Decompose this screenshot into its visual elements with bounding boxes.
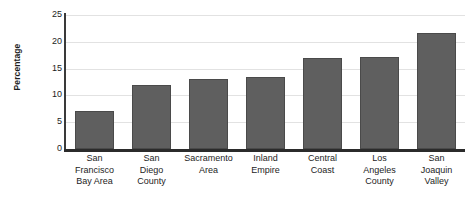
x-axis-category-label-line: County bbox=[123, 176, 180, 188]
x-axis-category-label-line: San bbox=[123, 153, 180, 165]
x-axis-category-label: SanFranciscoBay Area bbox=[66, 153, 123, 188]
y-axis-tick-label: 25 bbox=[38, 9, 62, 19]
x-axis-category-label-line: Diego bbox=[123, 165, 180, 177]
x-axis-category-label-line: Joaquin bbox=[408, 165, 465, 177]
y-axis-tick-label: 15 bbox=[38, 63, 62, 73]
x-axis-category-label: SanJoaquinValley bbox=[408, 153, 465, 188]
x-axis-category-label-line: Valley bbox=[408, 176, 465, 188]
y-axis-tick-label: 10 bbox=[38, 89, 62, 99]
x-axis-category-label: CentralCoast bbox=[294, 153, 351, 176]
x-axis-category-label-line: San bbox=[66, 153, 123, 165]
bar bbox=[75, 111, 114, 149]
x-axis-category-label: LosAngelesCounty bbox=[351, 153, 408, 188]
x-axis-category-label: InlandEmpire bbox=[237, 153, 294, 176]
x-axis-category-label-line: Los bbox=[351, 153, 408, 165]
y-axis-title: Percentage bbox=[12, 22, 22, 112]
x-axis-category-label-line: Angeles bbox=[351, 165, 408, 177]
x-axis-category-label-line: Francisco bbox=[66, 165, 123, 177]
x-axis-category-label-line: Bay Area bbox=[66, 176, 123, 188]
bar bbox=[303, 58, 342, 149]
x-axis-category-labels: SanFranciscoBay AreaSanDiegoCountySacram… bbox=[66, 153, 465, 205]
bar bbox=[189, 79, 228, 149]
bar-chart: Percentage 0510152025 SanFranciscoBay Ar… bbox=[0, 0, 473, 205]
bar bbox=[246, 77, 285, 149]
bar bbox=[417, 33, 456, 149]
x-axis-category-label: SacramentoArea bbox=[180, 153, 237, 176]
x-axis-category-label-line: Area bbox=[180, 165, 237, 177]
x-axis-category-label-line: Coast bbox=[294, 165, 351, 177]
y-axis-tick-label: 20 bbox=[38, 36, 62, 46]
bar bbox=[360, 57, 399, 149]
x-axis-line bbox=[64, 149, 465, 152]
x-axis-category-label-line: San bbox=[408, 153, 465, 165]
x-axis-category-label: SanDiegoCounty bbox=[123, 153, 180, 188]
y-axis-tick-label: 5 bbox=[38, 116, 62, 126]
x-axis-category-label-line: Inland bbox=[237, 153, 294, 165]
bars-layer bbox=[66, 0, 465, 149]
bar bbox=[132, 85, 171, 149]
y-axis-tick-labels: 0510152025 bbox=[34, 0, 62, 205]
x-axis-category-label-line: Sacramento bbox=[180, 153, 237, 165]
x-axis-category-label-line: County bbox=[351, 176, 408, 188]
x-axis-category-label-line: Central bbox=[294, 153, 351, 165]
y-axis-tick-label: 0 bbox=[38, 143, 62, 153]
x-axis-category-label-line: Empire bbox=[237, 165, 294, 177]
